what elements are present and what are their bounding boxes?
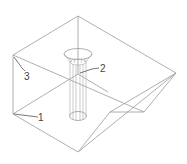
callout-1: 1 — [38, 112, 44, 123]
wireframe-svg: 3 1 2 — [0, 0, 187, 164]
funnel-tube — [64, 49, 92, 121]
box-outline — [13, 16, 176, 152]
callout-2: 2 — [100, 63, 106, 74]
callout-3: 3 — [24, 71, 30, 82]
technical-drawing: 3 1 2 — [0, 0, 187, 164]
